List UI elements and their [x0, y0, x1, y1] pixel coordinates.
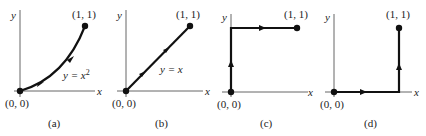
start-point-label: (0, 0) — [112, 97, 136, 110]
end-point — [294, 25, 300, 31]
end-point-label: (1, 1) — [284, 8, 308, 21]
x-axis-label: x — [204, 85, 210, 97]
vertical-then-horizontal-path — [231, 28, 297, 92]
caption-a: (a) — [48, 117, 61, 130]
end-point — [187, 23, 193, 29]
y-axis-label: y — [221, 11, 227, 23]
line-path — [126, 26, 190, 91]
curve-label: y = x — [159, 63, 183, 75]
caption-b: (b) — [155, 117, 168, 130]
end-point-label: (1, 1) — [72, 8, 96, 21]
curve-label: y = x2 — [62, 68, 90, 81]
panel-b: y x (1, 1) (0, 0) y = x (b) — [112, 8, 210, 130]
arrow-icon — [259, 25, 266, 31]
x-axis-label: x — [307, 86, 313, 98]
x-axis-label: x — [413, 86, 419, 98]
start-point — [17, 88, 23, 94]
arrow-icon — [228, 60, 234, 67]
parabola-path — [20, 26, 85, 91]
caption-c: (c) — [260, 117, 273, 130]
start-point-label: (0, 0) — [320, 98, 344, 111]
end-point — [396, 25, 402, 31]
horizontal-then-vertical-path — [334, 28, 399, 92]
panel-d: y x (1, 1) (0, 0) (d) — [320, 8, 419, 130]
start-point-label: (0, 0) — [5, 97, 29, 110]
panel-a: y x (1, 1) (0, 0) y = x2 (a) — [5, 8, 102, 130]
y-axis-label: y — [324, 11, 330, 23]
start-point — [123, 88, 129, 94]
x-axis-label: x — [96, 85, 102, 97]
panel-c: y x (1, 1) (0, 0) (c) — [217, 8, 313, 130]
y-axis-label: y — [10, 9, 16, 21]
start-point — [331, 89, 337, 95]
figure: y x (1, 1) (0, 0) y = x2 (a) y x (1, 1) … — [0, 0, 426, 136]
end-point-label: (1, 1) — [386, 8, 410, 21]
arrow-icon — [396, 63, 402, 70]
arrow-icon — [360, 89, 367, 95]
caption-d: (d) — [364, 117, 377, 130]
end-point — [82, 23, 88, 29]
start-point-label: (0, 0) — [217, 98, 241, 111]
y-axis-label: y — [116, 9, 122, 21]
end-point-label: (1, 1) — [176, 8, 200, 21]
start-point — [228, 89, 234, 95]
